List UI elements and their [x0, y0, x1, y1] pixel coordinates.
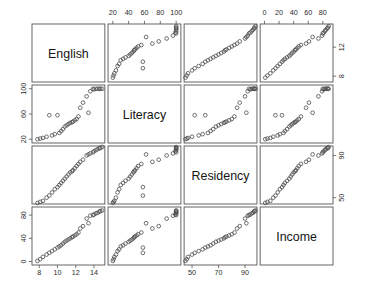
- diagonal-label-literacy: Literacy: [123, 108, 167, 122]
- data-point: [317, 154, 321, 158]
- diagonal-label-english: English: [48, 47, 89, 61]
- data-point: [87, 221, 91, 225]
- axis-tick-label: 60: [19, 110, 28, 118]
- data-point: [263, 137, 267, 141]
- data-point: [321, 150, 325, 154]
- axis-tick-label: 60: [304, 8, 312, 17]
- data-point: [245, 111, 249, 115]
- data-point: [245, 221, 249, 225]
- data-point: [141, 246, 145, 250]
- axis-tick-label: 60: [140, 8, 148, 17]
- data-point: [311, 111, 315, 115]
- data-point: [197, 134, 201, 138]
- data-point: [144, 153, 148, 157]
- axis-tick-label: 20: [275, 8, 283, 17]
- data-point: [45, 135, 49, 139]
- data-point: [274, 194, 278, 198]
- axis-tick-label: 100: [19, 83, 28, 95]
- data-point: [285, 179, 289, 183]
- data-point: [157, 40, 161, 44]
- panel-frame: [108, 24, 181, 82]
- axis-tick-label: 0: [263, 8, 267, 17]
- data-point: [151, 42, 155, 46]
- data-point: [201, 62, 205, 66]
- panel-residency-vs-residency: Residency: [184, 146, 257, 204]
- panel-frame: [184, 24, 257, 82]
- data-point: [157, 224, 161, 228]
- data-point: [45, 253, 49, 257]
- y-axis-income: 04080: [19, 211, 32, 263]
- data-point: [317, 37, 321, 41]
- data-point: [193, 113, 197, 117]
- panel-english-vs-literacy: [108, 24, 181, 82]
- data-point: [304, 42, 308, 46]
- axis-tick-label: 14: [90, 268, 98, 277]
- y-axis-literacy: 2060100: [19, 83, 32, 143]
- data-point: [56, 113, 60, 117]
- data-point: [119, 183, 123, 187]
- pairs-plot-svg: EnglishLiteracyResidencyIncome8101214812…: [0, 0, 365, 289]
- data-point: [85, 95, 89, 99]
- data-point: [263, 76, 267, 80]
- data-point: [235, 106, 239, 110]
- axis-tick-label: 100: [170, 8, 182, 17]
- panel-english-vs-residency: [184, 24, 258, 82]
- data-point: [299, 162, 303, 166]
- x-axis-literacy: 20406080100: [109, 8, 182, 24]
- data-point: [144, 35, 148, 39]
- data-point: [235, 227, 239, 231]
- x-axis-english: 8101214: [37, 265, 98, 277]
- data-point: [197, 249, 201, 253]
- data-point: [53, 187, 57, 191]
- data-point: [274, 113, 278, 117]
- panel-english-vs-english: English: [32, 24, 105, 82]
- axis-tick-label: 90: [337, 151, 346, 159]
- panel-residency-vs-income: [260, 145, 333, 205]
- data-point: [274, 66, 278, 70]
- axis-tick-label: 20: [19, 135, 28, 143]
- data-point: [78, 106, 82, 110]
- panel-frame: [32, 207, 105, 265]
- axis-tick-label: 12: [337, 43, 346, 51]
- data-point: [311, 35, 315, 39]
- axis-tick-label: 50: [337, 194, 346, 202]
- data-point: [307, 101, 311, 105]
- panel-frame: [260, 85, 333, 143]
- data-point: [243, 217, 247, 221]
- data-point: [271, 69, 275, 73]
- data-point: [311, 153, 315, 157]
- data-point: [87, 111, 91, 115]
- data-point: [36, 259, 40, 263]
- data-point: [157, 158, 161, 162]
- data-point: [304, 106, 308, 110]
- axis-tick-label: 8: [337, 74, 346, 78]
- data-point: [165, 217, 169, 221]
- axis-tick-label: 40: [125, 8, 133, 17]
- axis-tick-label: 90: [241, 268, 249, 277]
- data-point: [238, 101, 242, 105]
- panel-literacy-vs-residency: [184, 85, 258, 143]
- panel-residency-vs-literacy: [108, 145, 181, 205]
- data-point: [190, 69, 194, 73]
- data-point: [276, 64, 280, 68]
- data-point: [45, 196, 49, 200]
- data-point: [317, 95, 321, 99]
- data-point: [116, 191, 120, 195]
- data-point: [121, 181, 125, 185]
- data-point: [201, 132, 205, 136]
- scatterplot-matrix-figure: EnglishLiteracyResidencyIncome8101214812…: [0, 0, 365, 289]
- axis-tick-label: 80: [19, 211, 28, 219]
- data-point: [165, 154, 169, 158]
- axis-tick-label: 8: [37, 268, 41, 277]
- axis-tick-label: 40: [290, 8, 298, 17]
- data-point: [197, 64, 201, 68]
- y-axis-residency: 5090: [333, 151, 346, 201]
- data-point: [165, 37, 169, 41]
- data-point: [203, 113, 207, 117]
- data-point: [78, 227, 82, 231]
- panel-frame: [184, 85, 257, 143]
- data-point: [206, 131, 210, 135]
- axis-tick-label: 12: [72, 268, 80, 277]
- diagonal-label-residency: Residency: [192, 169, 251, 183]
- panel-frame: [32, 146, 105, 204]
